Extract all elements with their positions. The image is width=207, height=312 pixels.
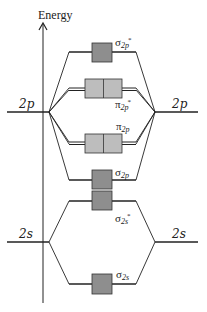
mo-superscript: * [128, 36, 132, 44]
energy-axis [39, 23, 47, 303]
label-sigma-2p: σ2p [115, 167, 129, 180]
label-right-2s: 2s [172, 228, 186, 240]
mo-superscript: * [127, 212, 131, 220]
orbital-sigma-2s-star [69, 191, 136, 210]
label-left-2p: 2p [19, 98, 34, 110]
label-sigma-2s-star: σ2s* [115, 213, 131, 226]
orbital-pi-2p [69, 134, 136, 153]
mo-subscript: 2p [122, 125, 130, 134]
mo-energy-diagram: Energy 2p 2p 2s 2s σ2p* π2p* π2p σ2p σ2s… [0, 0, 207, 312]
axis-title: Energy [38, 9, 72, 21]
label-pi-2p-star: π2p* [115, 99, 131, 112]
diagram-lines [0, 0, 207, 312]
connectors-2s [49, 201, 155, 284]
label-sigma-2p-star: σ2p* [115, 37, 131, 50]
label-right-2p: 2p [172, 98, 187, 110]
orbital-pi-2p-star [69, 79, 136, 98]
mo-subscript: 2s [122, 273, 129, 282]
mo-superscript: * [128, 98, 132, 106]
mo-subscript: 2p [121, 171, 129, 180]
label-pi-2p: π2p [116, 121, 130, 134]
label-sigma-2s: σ2s [116, 269, 129, 282]
label-left-2s: 2s [19, 228, 33, 240]
connectors-2p [49, 52, 155, 180]
